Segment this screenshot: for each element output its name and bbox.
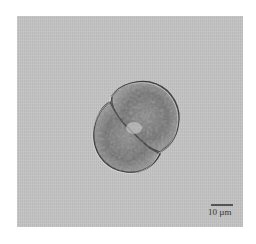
- scale-bar-label: 10 µm: [208, 207, 231, 217]
- cell-specimen: [90, 78, 182, 174]
- micrograph-frame: 10 µm: [17, 16, 243, 227]
- scale-bar: [211, 204, 233, 206]
